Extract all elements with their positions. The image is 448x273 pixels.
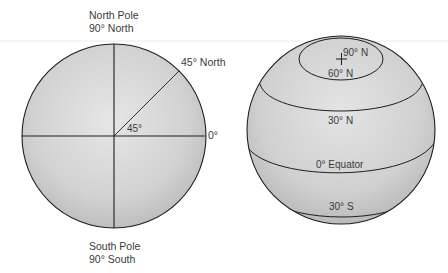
angle-45-label: 45°: [127, 123, 142, 134]
lat-45-north-label: 45° North: [181, 56, 226, 68]
south-pole-degree-label: 90° South: [89, 253, 135, 265]
lat-30n-label: 30° N: [328, 115, 353, 126]
lat-60n-label: 60° N: [328, 68, 353, 79]
left-cross-section-diagram: North Pole 90° North 45° North 45° 0° So…: [22, 9, 226, 265]
equator-label: 0° Equator: [316, 159, 364, 170]
south-pole-label: South Pole: [89, 240, 141, 252]
north-pole-degree-label: 90° North: [89, 22, 134, 34]
latitude-figure: North Pole 90° North 45° North 45° 0° So…: [0, 0, 448, 273]
right-globe-diagram: 90° N 60° N 30° N 0° Equator 30° S: [247, 36, 435, 224]
pole-90n-label: 90° N: [343, 47, 368, 58]
lat-30s-label: 30° S: [329, 201, 354, 212]
north-pole-label: North Pole: [89, 9, 139, 21]
equator-0-label: 0°: [208, 129, 218, 141]
